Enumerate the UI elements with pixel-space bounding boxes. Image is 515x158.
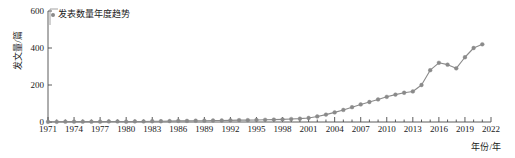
series-data-point [107, 120, 111, 124]
series-data-point [255, 118, 259, 122]
series-data-point [394, 93, 398, 97]
series-data-point [142, 120, 146, 124]
series-data-point [124, 120, 128, 124]
series-data-point [367, 100, 371, 104]
series-data-point [229, 118, 233, 122]
series-data-point [194, 119, 198, 123]
series-data-point [454, 66, 458, 70]
series-data-point [402, 91, 406, 95]
series-data-point [437, 61, 441, 65]
series-data-point [446, 63, 450, 67]
series-data-point [307, 116, 311, 120]
series-data-point [359, 103, 363, 107]
series-data-point [324, 113, 328, 117]
series-data-point [341, 108, 345, 112]
series-data-point [55, 120, 59, 124]
series-data-point [185, 119, 189, 123]
series-data-point [420, 83, 424, 87]
series-data-point [246, 118, 250, 122]
series-data-point [202, 119, 206, 123]
series-data-point [46, 120, 50, 124]
plot-area [0, 0, 515, 158]
series-data-point [289, 117, 293, 121]
series-data-point [176, 119, 180, 123]
series-data-point [220, 119, 224, 123]
series-data-point [350, 105, 354, 109]
legend-label: 发表数量年度趋势 [58, 10, 130, 19]
series-data-point [72, 120, 76, 124]
legend-marker-icon [51, 13, 55, 17]
series-data-point [150, 119, 154, 123]
series-data-point [98, 120, 102, 124]
series-data-point [168, 119, 172, 123]
series-data-point [263, 118, 267, 122]
series-data-point [237, 118, 241, 122]
series-data-point [211, 119, 215, 123]
series-data-point [385, 95, 389, 99]
series-data-point [63, 120, 67, 124]
series-data-point [90, 120, 94, 124]
chart-container: 发文量/篇 年份/年 0200400600 197119741977198019… [0, 0, 515, 158]
chart-legend: 发表数量年度趋势 [50, 9, 133, 20]
series-data-point [116, 120, 120, 124]
series-line [48, 44, 482, 122]
series-data-point [428, 68, 432, 72]
series-data-point [159, 119, 163, 123]
series-data-point [281, 118, 285, 122]
axis-lines [48, 11, 491, 122]
series-data-point [298, 117, 302, 121]
series-data-point [81, 120, 85, 124]
series-data-point [333, 110, 337, 114]
series-data-point [463, 55, 467, 59]
series-data-point [472, 46, 476, 50]
series-data-point [411, 90, 415, 94]
series-data-point [315, 115, 319, 119]
series-data-point [480, 42, 484, 46]
series-data-point [272, 118, 276, 122]
series-data-point [133, 120, 137, 124]
series-data-point [376, 98, 380, 102]
